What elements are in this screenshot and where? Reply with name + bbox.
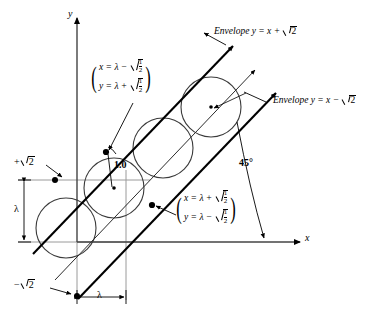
- lambda-vertical-dimension: [18, 180, 31, 242]
- angle-arc-45: [237, 122, 264, 238]
- frac-num: 1: [224, 209, 228, 216]
- radius-arc: [108, 147, 116, 154]
- y-intercept-point-positive: [52, 177, 58, 183]
- frac-den: 2: [224, 197, 228, 205]
- sqrt-icon: 2: [20, 156, 35, 167]
- figure-canvas: y x Envelope y = x + 2 Envelope y = x − …: [0, 0, 379, 312]
- radius-leader: [108, 154, 112, 187]
- y-intercept-positive-label: +2: [14, 156, 35, 167]
- parametric-upper-left: ( x = λ − 1 2 y = λ + 1 2 ): [89, 57, 153, 96]
- left-paren-icon: (: [176, 197, 182, 219]
- angle-label-45: 45°: [239, 158, 253, 168]
- parametric-lower-right-y-lhs: y = λ −: [184, 212, 212, 222]
- right-paren-icon: ): [230, 197, 236, 219]
- circle-center-dot-4: [209, 105, 213, 109]
- leader-envelope-lower: [244, 92, 266, 102]
- parametric-lower-right-x-lhs: x = λ +: [184, 193, 212, 203]
- frac-den: 2: [139, 86, 143, 94]
- circle-3: [133, 118, 193, 178]
- parametric-upper-left-y-row: y = λ + 1 2: [99, 77, 143, 97]
- envelope-lower-radicand: 2: [349, 95, 356, 106]
- diagram-vector-layer: [0, 0, 379, 312]
- parametric-upper-left-x-lhs: x = λ −: [99, 62, 127, 72]
- envelope-upper-prefix: Envelope: [214, 26, 249, 36]
- frac-den: 2: [224, 217, 228, 225]
- envelope-upper-equation: y = x +: [252, 26, 280, 36]
- circle-family: [36, 77, 241, 258]
- sqrt-icon: 2: [282, 26, 297, 37]
- sqrt-icon: 2: [20, 279, 35, 290]
- right-paren-icon: ): [145, 66, 151, 88]
- radius-label: 1.0: [114, 160, 127, 170]
- circle-1: [36, 198, 96, 258]
- leader-y-intercept-positive: [46, 165, 62, 177]
- frac-num: 1: [224, 190, 228, 197]
- envelope-lower-label: Envelope y = x − 2: [273, 95, 356, 106]
- sqrt-icon: 2: [341, 95, 356, 106]
- y-axis-label: y: [68, 9, 72, 19]
- left-paren-icon: (: [91, 66, 97, 88]
- parametric-lower-right: ( x = λ + 1 2 y = λ − 1 2 ): [174, 188, 238, 227]
- y-intercept-positive-radicand: 2: [28, 156, 35, 167]
- parametric-lower-right-x-row: x = λ + 1 2: [184, 188, 228, 208]
- envelope-lower-equation: y = x −: [311, 95, 339, 105]
- frac-num: 1: [139, 78, 143, 85]
- center-line: [55, 70, 255, 280]
- tangent-point-lower: [149, 202, 155, 208]
- envelope-upper-label: Envelope y = x + 2: [214, 26, 297, 37]
- sqrt-icon: 1 2: [130, 78, 144, 95]
- leader-parametric-upper-left: [109, 103, 133, 150]
- lambda-horizontal-label: λ: [97, 290, 102, 300]
- parametric-upper-left-x-row: x = λ − 1 2: [99, 57, 143, 77]
- sqrt-icon: 1 2: [215, 209, 229, 226]
- sqrt-icon: 1 2: [215, 190, 229, 207]
- lambda-vertical-label: λ: [14, 204, 19, 214]
- circle-center-dot-2: [112, 186, 116, 190]
- frac-num: 1: [139, 59, 143, 66]
- x-axis-label: x: [305, 233, 309, 243]
- sqrt-icon: 1 2: [130, 59, 144, 76]
- y-intercept-negative-label: −2: [14, 279, 35, 290]
- parametric-upper-left-y-lhs: y = λ +: [99, 81, 127, 91]
- frac-den: 2: [139, 66, 143, 74]
- envelope-upper-radicand: 2: [290, 26, 297, 37]
- y-intercept-negative-radicand: 2: [28, 279, 35, 290]
- envelope-lower-prefix: Envelope: [273, 95, 308, 105]
- leader-y-intercept-negative: [50, 288, 71, 294]
- parametric-lower-right-y-row: y = λ − 1 2: [184, 208, 228, 228]
